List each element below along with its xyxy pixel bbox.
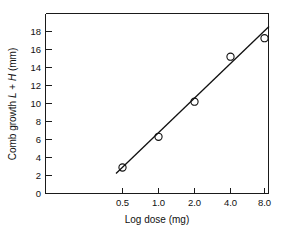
y-tick-label-12: 12 (30, 80, 41, 91)
x-tick-label-4-0: 4.0 (224, 197, 237, 208)
data-points (119, 35, 268, 171)
y-axis-title-prefix: Comb growth (7, 98, 18, 160)
chart-figure: 0 2 4 6 8 10 12 14 16 18 0.5 1.0 2.0 4.0… (0, 0, 282, 235)
y-axis-title: Comb growth L + H (mm) (7, 48, 18, 161)
y-axis-title-plus: + (7, 81, 18, 92)
y-tick-label-0: 0 (36, 188, 41, 199)
y-tick-label-14: 14 (30, 62, 41, 73)
data-point-4 (261, 35, 268, 42)
x-axis-tick-labels: 0.5 1.0 2.0 4.0 8.0 (116, 197, 271, 208)
data-point-2 (191, 98, 198, 105)
y-tick-label-8: 8 (36, 116, 41, 127)
y-axis-title-suffix: (mm) (7, 48, 18, 74)
y-tick-label-18: 18 (30, 26, 41, 37)
x-axis-ticks (123, 188, 265, 194)
x-tick-label-1-0: 1.0 (152, 197, 165, 208)
data-point-3 (227, 53, 234, 60)
y-tick-label-6: 6 (36, 134, 41, 145)
y-tick-label-2: 2 (36, 170, 41, 181)
comb-growth-scatter-chart: 0 2 4 6 8 10 12 14 16 18 0.5 1.0 2.0 4.0… (0, 0, 282, 235)
data-point-1 (155, 133, 162, 140)
y-tick-label-4: 4 (36, 152, 41, 163)
x-tick-label-8-0: 8.0 (258, 197, 271, 208)
y-axis-ticks (46, 32, 52, 194)
x-tick-label-0-5: 0.5 (116, 197, 129, 208)
fit-line-group (116, 27, 269, 174)
plot-frame (46, 14, 269, 194)
y-tick-label-16: 16 (30, 44, 41, 55)
x-tick-label-2-0: 2.0 (188, 197, 201, 208)
x-axis-title: Log dose (mg) (125, 214, 189, 225)
y-tick-label-10: 10 (30, 98, 41, 109)
fitted-regression-line (116, 27, 269, 174)
y-axis-tick-labels: 0 2 4 6 8 10 12 14 16 18 (30, 26, 41, 199)
